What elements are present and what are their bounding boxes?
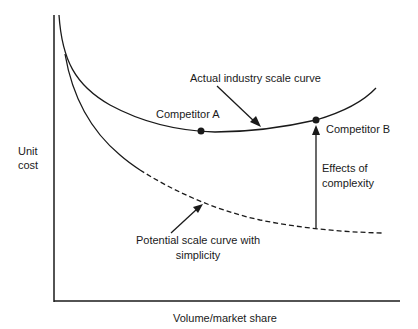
x-axis-label: Volume/market share bbox=[173, 312, 277, 325]
actual-curve-label: Actual industry scale curve bbox=[190, 72, 321, 85]
potential-curve-label-line2: simplicity bbox=[118, 249, 278, 262]
y-axis-label-line2: cost bbox=[18, 159, 38, 172]
competitor-a-label: Competitor A bbox=[156, 108, 220, 121]
effects-label-line1: Effects of bbox=[322, 162, 368, 175]
potential-curve-arrow bbox=[171, 209, 197, 233]
potential-scale-curve-solid bbox=[65, 54, 140, 170]
potential-curve-label-line1: Potential scale curve with bbox=[118, 234, 278, 247]
actual-curve-arrowhead bbox=[250, 116, 261, 127]
actual-curve-arrow bbox=[217, 86, 256, 123]
competitor-a-dot bbox=[198, 128, 205, 135]
competitor-b-label: Competitor B bbox=[326, 123, 390, 136]
effects-of-complexity-arrowhead bbox=[312, 125, 320, 135]
competitor-b-dot bbox=[313, 117, 320, 124]
y-axis-label-line1: Unit bbox=[18, 145, 38, 158]
effects-label-line2: complexity bbox=[322, 177, 374, 190]
